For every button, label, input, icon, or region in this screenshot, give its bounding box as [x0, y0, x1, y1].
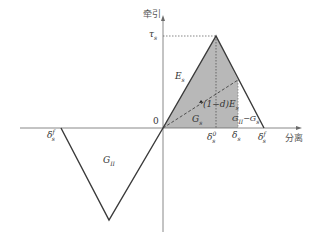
delta-sf-negative-label: δfs: [47, 129, 55, 142]
traction-axis-label: 牵引: [143, 10, 161, 19]
g-ii-label: GII: [103, 156, 115, 167]
separation-axis-label: 分离: [285, 134, 303, 143]
traction-separation-curve-negative: [61, 128, 163, 220]
damaged-stiffness-label: (1−d)Es: [203, 100, 239, 111]
traction-separation-diagram: [0, 0, 318, 250]
delta-sf-label: δfs: [258, 131, 266, 144]
initial-stiffness-label: Es: [175, 72, 185, 83]
separation-axis-arrow-icon: [296, 126, 302, 130]
tau-s-label: τs: [149, 30, 157, 41]
delta-s-label: δs: [232, 131, 241, 142]
g-ii-minus-g-s-label: GII−Gs: [232, 115, 259, 125]
delta-s0-label: δ0s: [207, 131, 215, 144]
g-s-label: Gs: [192, 115, 202, 126]
origin-label: 0: [153, 117, 159, 126]
traction-axis-arrow-icon: [161, 15, 165, 21]
